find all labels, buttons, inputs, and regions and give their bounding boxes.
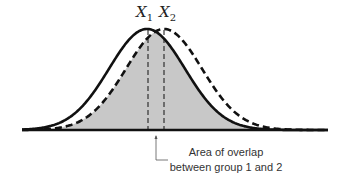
overlap-area [22,32,328,130]
x1-label: X1 [136,5,153,25]
annotation-line-2: between group 1 and 2 [166,160,286,175]
annotation-line-1: Area of overlap [166,145,286,160]
x2-label: X2 [159,5,176,25]
pointer-arrow-icon [155,135,158,139]
overlap-annotation: Area of overlap between group 1 and 2 [166,145,286,175]
